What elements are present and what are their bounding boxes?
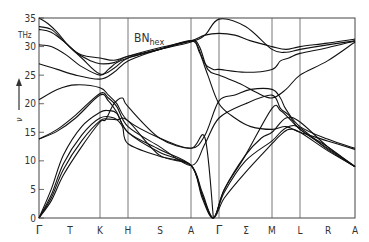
x-axis-labels: ΓTKHSAΓΣMLRA [36,222,359,237]
y-axis-arrow [16,78,22,110]
dispersion-branch [39,29,355,74]
dispersion-curves [39,18,355,218]
y-tick-label: 20 [25,98,37,109]
x-tick-label: A [188,225,195,236]
y-tick-label: 10 [25,155,37,166]
x-tick-label: T [66,225,73,236]
dispersion-branch [39,110,355,218]
x-tick-label: Σ [243,225,249,236]
phonon-dispersion-chart: 05101520253035 ΓTKHSAΓΣMLRA THz ν BNhex [0,0,369,242]
x-tick-label: R [325,225,331,236]
y-unit-label: THz [17,31,32,40]
y-axis-ticks: 05101520253035 [25,13,44,224]
dispersion-branch [39,94,355,218]
x-tick-label: Γ [36,222,43,237]
x-tick-label: A [352,225,359,236]
x-tick-label: Γ [216,222,223,237]
dispersion-branch [39,116,355,218]
x-tick-label: L [297,225,302,236]
x-tick-label: S [157,225,163,236]
dispersion-branch [39,85,355,148]
y-tick-label: 5 [30,184,36,195]
y-tick-label: 15 [25,127,36,138]
dispersion-branch [39,41,355,98]
y-tick-label: 25 [25,70,36,81]
x-tick-label: M [268,225,276,236]
y-tick-label: 35 [25,13,36,24]
y-tick-label: 30 [25,41,37,52]
chart-annotation: BNhex [134,31,164,47]
dispersion-branch [39,98,213,218]
y-axis-symbol: ν [14,117,24,122]
x-tick-label: K [97,225,104,236]
x-tick-label: H [125,225,132,236]
